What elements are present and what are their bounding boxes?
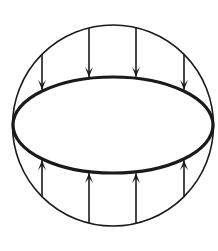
sphere-compression-diagram [0, 0, 218, 251]
arrow-down-1 [38, 54, 46, 89]
arrow-down-4 [180, 54, 188, 89]
arrow-up-2 [85, 173, 93, 223]
upward-arrows-lower-hemisphere [38, 160, 188, 223]
arrow-up-3 [132, 173, 140, 223]
arrow-down-2 [85, 28, 93, 77]
equator-ellipse [13, 77, 213, 173]
equator-ring-ellipse [13, 77, 213, 173]
downward-arrows-upper-hemisphere [38, 28, 188, 90]
arrow-down-3 [132, 28, 140, 77]
arrow-up-4 [180, 160, 188, 196]
arrow-up-1 [38, 160, 46, 196]
diagram-canvas [0, 0, 218, 251]
